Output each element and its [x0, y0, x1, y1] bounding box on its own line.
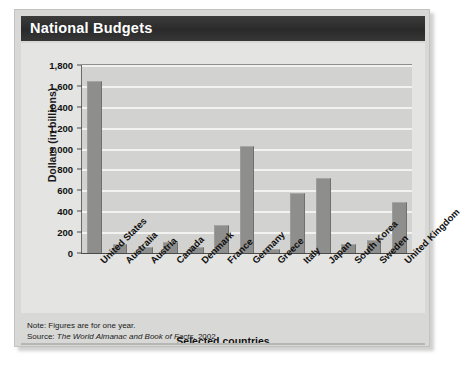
bottom-rule — [21, 343, 425, 345]
y-tick-label: 1,400 — [49, 101, 73, 112]
y-tick-label: 400 — [57, 206, 73, 217]
chart-card: Dollars (in billions) 1,8001,6001,4001,2… — [21, 43, 425, 313]
chart-title-bar: National Budgets — [21, 16, 425, 41]
y-tick-label: 0 — [68, 248, 73, 259]
y-tick-label: 200 — [57, 227, 73, 238]
y-tick-label: 1,800 — [49, 60, 73, 71]
page-title: National Budgets — [21, 16, 425, 41]
y-tick-label: 1,000 — [49, 143, 73, 154]
source-year: 2002 — [198, 332, 216, 341]
bar — [316, 178, 331, 253]
x-axis-labels: United StatesAustraliaAustriaCanadaDenma… — [81, 255, 411, 311]
source-line: Source: The World Almanac and Book of Fa… — [27, 331, 216, 342]
y-tick-label: 800 — [57, 164, 73, 175]
y-tick-label: 1,200 — [49, 122, 73, 133]
footnotes: Note: Figures are for one year. Source: … — [27, 320, 216, 342]
source-prefix: Source: — [27, 332, 55, 341]
y-tick-label: 1,600 — [49, 80, 73, 91]
y-tick-label: 600 — [57, 185, 73, 196]
source-title: The World Almanac and Book of Facts, — [57, 332, 196, 341]
note-line: Note: Figures are for one year. — [27, 320, 216, 331]
figure-panel: National Budgets Dollars (in billions) 1… — [14, 9, 430, 347]
bar — [87, 81, 102, 253]
